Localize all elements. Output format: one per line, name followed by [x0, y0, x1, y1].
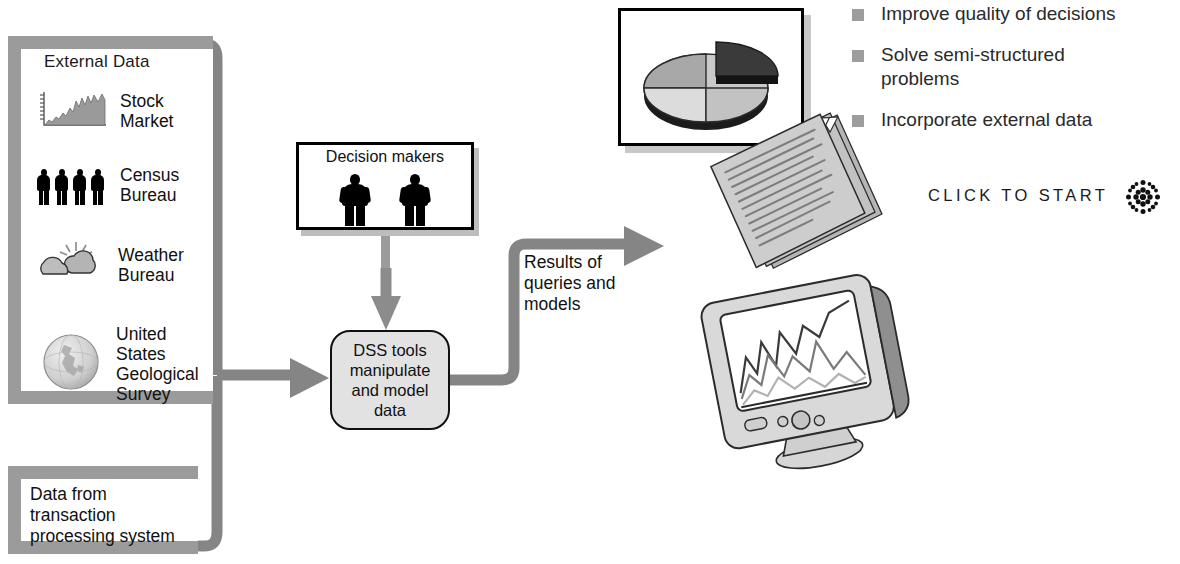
sign-post — [381, 230, 390, 268]
starburst-dots-icon[interactable] — [1120, 174, 1166, 220]
source-item-usgs: United States Geological Survey — [40, 322, 220, 406]
source-label-usgs: United States Geological Survey — [116, 324, 199, 404]
benefits-list: Improve quality of decisions Solve semi-… — [852, 2, 1180, 149]
bullet-square-icon — [852, 9, 864, 21]
dss-tools-box: DSS tools manipulate and model data — [330, 330, 450, 430]
bullet-square-icon — [852, 115, 864, 127]
globe-icon — [40, 331, 102, 397]
weather-clouds-icon — [32, 240, 106, 290]
external-data-heading: External Data — [44, 52, 150, 72]
source-item-weather-bureau: Weather Bureau — [32, 240, 212, 290]
benefit-item: Improve quality of decisions — [852, 2, 1180, 26]
bullet-square-icon — [852, 50, 864, 62]
source-label-census-bureau: Census Bureau — [120, 165, 179, 205]
transaction-source-label: Data from transaction processing system — [30, 484, 175, 547]
census-people-icon — [36, 165, 110, 205]
results-label: Results of queries and models — [524, 252, 615, 315]
benefit-label: Improve quality of decisions — [881, 2, 1115, 26]
crt-monitor-icon — [692, 268, 922, 478]
dss-diagram-canvas: External Data Stock Market Census — [0, 0, 1180, 564]
benefit-item: Incorporate external data — [852, 108, 1180, 132]
benefit-label: Incorporate external data — [881, 108, 1092, 132]
source-label-stock-market: Stock Market — [120, 91, 173, 131]
source-label-weather-bureau: Weather Bureau — [118, 245, 184, 285]
click-to-start-label[interactable]: CLICK TO START — [928, 186, 1108, 205]
stock-chart-icon — [36, 89, 108, 133]
benefit-item: Solve semi-structured problems — [852, 43, 1180, 91]
source-item-census-bureau: Census Bureau — [36, 163, 206, 207]
two-business-people-icon — [320, 172, 450, 226]
source-item-stock-market: Stock Market — [36, 88, 206, 134]
decision-makers-title: Decision makers — [305, 148, 465, 166]
dss-tools-label: DSS tools manipulate and model data — [350, 340, 431, 420]
benefit-label: Solve semi-structured problems — [881, 43, 1065, 91]
